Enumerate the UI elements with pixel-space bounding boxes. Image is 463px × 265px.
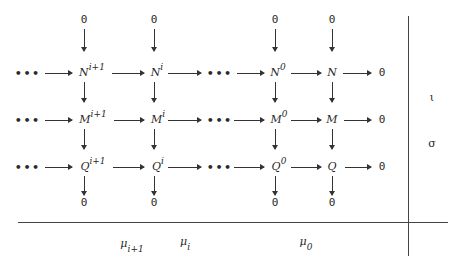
arrow-right: [343, 73, 371, 74]
label-sigma: σ: [428, 138, 436, 150]
zero-right-n: 0: [379, 67, 386, 79]
label-mu-i-plus-1: μi+1: [120, 238, 143, 250]
zero-top-col2: 0: [151, 14, 158, 26]
arrow-down: [332, 29, 333, 51]
node-m: M: [326, 114, 337, 126]
ellipsis-n-mid: •••: [207, 67, 233, 80]
arrow-right: [168, 73, 201, 74]
arrow-right: [291, 167, 321, 168]
node-n-i: Ni: [151, 67, 164, 79]
label-iota: ι: [430, 92, 434, 104]
node-q-i-plus-1: Qi+1: [80, 161, 105, 173]
arrow-down: [332, 129, 333, 149]
arrow-right: [168, 120, 201, 121]
node-n-0: N0: [270, 67, 285, 79]
node-n: N: [327, 67, 337, 79]
arrow-down: [154, 129, 155, 149]
arrow-down: [84, 29, 85, 51]
arrow-right: [291, 73, 321, 74]
arrow-down: [154, 176, 155, 195]
zero-right-q: 0: [379, 161, 386, 173]
arrow-down: [84, 82, 85, 102]
arrow-right: [45, 167, 72, 168]
arrow-down: [332, 82, 333, 102]
zero-bottom-col2: 0: [151, 197, 158, 209]
arrow-right: [344, 120, 371, 121]
arrow-right: [113, 167, 144, 168]
arrow-down: [275, 176, 276, 195]
vertical-divider: [408, 16, 409, 256]
horizontal-divider: [18, 222, 448, 223]
node-m-i: Mi: [151, 114, 165, 126]
arrow-right: [237, 73, 264, 74]
arrow-right: [168, 167, 201, 168]
arrow-right: [234, 120, 264, 121]
arrow-right: [112, 73, 144, 74]
arrow-right: [45, 73, 72, 74]
arrow-down: [84, 176, 85, 195]
arrow-down: [154, 29, 155, 51]
ellipsis-m-left: •••: [15, 114, 41, 127]
zero-bottom-col1: 0: [81, 197, 88, 209]
arrow-down: [84, 129, 85, 149]
node-q-0: Q0: [272, 161, 287, 173]
ellipsis-n-left: •••: [15, 67, 41, 80]
node-m-i-plus-1: Mi+1: [79, 114, 106, 126]
label-mu-0: μ0: [300, 236, 313, 248]
node-n-i-plus-1: Ni+1: [79, 67, 105, 79]
label-mu-i: μi: [180, 236, 190, 248]
zero-top-col4: 0: [329, 14, 336, 26]
ellipsis-q-mid: •••: [207, 161, 233, 174]
arrow-right: [114, 120, 144, 121]
zero-bottom-col3: 0: [272, 197, 279, 209]
arrow-right: [45, 120, 72, 121]
arrow-right: [291, 120, 321, 121]
arrow-right: [234, 167, 264, 168]
arrow-right: [345, 167, 371, 168]
arrow-down: [275, 82, 276, 102]
zero-top-col3: 0: [272, 14, 279, 26]
zero-right-m: 0: [379, 114, 386, 126]
arrow-down: [154, 82, 155, 102]
node-q: Q: [327, 161, 336, 173]
node-q-i: Qi: [152, 161, 164, 173]
node-m-0: M0: [271, 114, 288, 126]
arrow-down: [332, 176, 333, 195]
zero-top-col1: 0: [81, 14, 88, 26]
ellipsis-q-left: •••: [15, 161, 41, 174]
ellipsis-m-mid: •••: [207, 114, 233, 127]
arrow-down: [275, 29, 276, 51]
zero-bottom-col4: 0: [329, 197, 336, 209]
arrow-down: [275, 129, 276, 149]
